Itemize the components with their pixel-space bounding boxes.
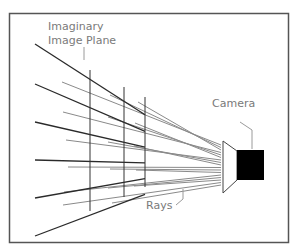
camera-label: Camera	[212, 97, 255, 110]
image-plane-label-line1: Imaginary	[48, 20, 104, 33]
image-plane-label-line2: Image Plane	[48, 34, 116, 47]
camera-body	[237, 150, 264, 180]
rays-label: Rays	[146, 199, 173, 212]
ray-casting-diagram: Imaginary Image Plane Camera Rays	[0, 0, 302, 250]
